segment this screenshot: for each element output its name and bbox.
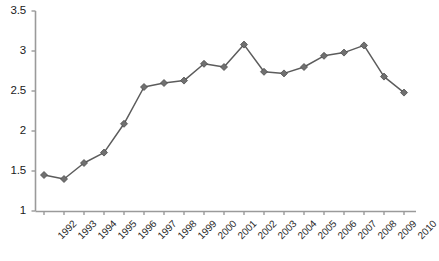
figure-caption bbox=[12, 251, 412, 260]
data-point-marker bbox=[161, 80, 168, 87]
y-tick-label: 2 bbox=[2, 125, 26, 136]
data-point-marker bbox=[141, 84, 148, 91]
data-series-line bbox=[41, 41, 408, 182]
y-tick-label: 1 bbox=[2, 205, 26, 216]
y-tick-label: 2.5 bbox=[2, 85, 26, 96]
chart-axes bbox=[32, 11, 417, 215]
data-point-marker bbox=[41, 172, 48, 179]
data-point-marker bbox=[341, 49, 348, 56]
data-point-marker bbox=[321, 52, 328, 59]
y-tick-label: 3 bbox=[2, 45, 26, 56]
data-point-marker bbox=[301, 64, 308, 71]
series-markers bbox=[41, 41, 408, 182]
y-tick-label: 3.5 bbox=[2, 5, 26, 16]
data-point-marker bbox=[281, 70, 288, 77]
y-tick-label: 1.5 bbox=[2, 165, 26, 176]
